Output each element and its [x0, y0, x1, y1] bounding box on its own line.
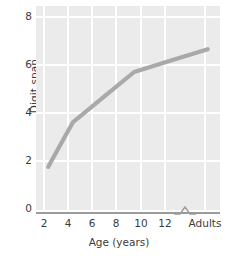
- x-tick-label-4: 4: [62, 217, 74, 229]
- x-tick-label-8: 8: [110, 217, 122, 229]
- y-tick-label-8: 8: [8, 11, 32, 21]
- digit-span-polyline: [48, 49, 207, 167]
- chart-figure: Digit span 8 6 4 2 0 2 4 6 8 10 12 Adult…: [0, 0, 238, 256]
- x-tick-label-adults: Adults: [184, 217, 226, 229]
- data-series-line: [36, 6, 220, 210]
- x-tick-label-6: 6: [86, 217, 98, 229]
- axis-break-icon: [174, 205, 196, 217]
- y-tick-label-6: 6: [8, 59, 32, 69]
- x-tick-label-2: 2: [38, 217, 50, 229]
- y-tick-label-2: 2: [8, 155, 32, 165]
- y-tick-label-4: 4: [8, 107, 32, 117]
- x-axis-title: Age (years): [0, 236, 238, 248]
- plot-area: [36, 6, 220, 210]
- x-tick-label-12: 12: [157, 217, 173, 229]
- x-tick-label-10: 10: [133, 217, 149, 229]
- y-tick-label-0: 0: [8, 203, 32, 213]
